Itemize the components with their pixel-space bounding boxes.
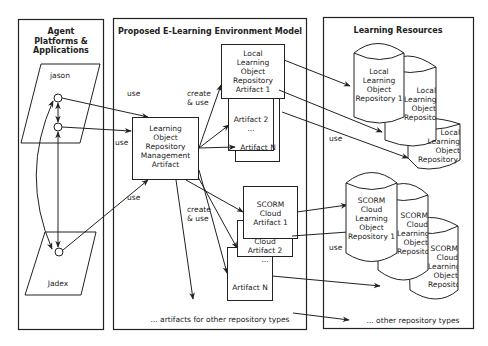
local-repo-n-label: Local Learning Object Repository N [418, 128, 460, 164]
local-repo-1-label: Local Learning Object Repository 1 [354, 67, 404, 103]
jadex-label: Jadex [38, 279, 78, 288]
resources-panel-title: Learning Resources [323, 26, 473, 36]
other-artifacts-label: ... artifacts for other repository types [140, 315, 300, 324]
use-label-bottom: use [127, 193, 140, 202]
scorm-artifact-2-label: Cloud Artifact 2 ... [237, 239, 293, 267]
local-repo-2-label: Local Learning Object Repository 2 [404, 86, 436, 122]
jason-label: jason [40, 71, 80, 80]
scorm-artifact-1-label: SCORM Cloud Artifact 1 [243, 200, 298, 227]
local-artifact-1-label: Local Learning Object Repository Artifac… [221, 49, 285, 94]
create-use-label-bottom: create & use [187, 205, 211, 223]
local-artifact-2-label: Artifact 2 ... [228, 115, 274, 133]
jason-node-1 [54, 94, 62, 102]
scorm-repo-1-label: SCORM Cloud Learning Object Repository 1 [346, 196, 397, 241]
model-panel-title: Proposed E-Learning Environment Model [113, 27, 307, 37]
scorm-repo-n-label: SCORM Cloud Learning Object Repository N [428, 244, 458, 289]
use-label-mid: use [115, 138, 128, 147]
use-scorm-repos-label: use [329, 243, 342, 252]
use-local-repos-label: use [329, 134, 342, 143]
local-artifact-n-label: Artifact N [235, 143, 281, 152]
management-artifact-label: Learning Object Repository Management Ar… [132, 124, 199, 169]
scorm-repo-2-label: SCORM Cloud Learning Object Repository 2 [397, 211, 428, 256]
jadex-node [55, 248, 63, 256]
create-use-label-top: create & use [187, 89, 211, 107]
scorm-artifact-n-label: Artifact N [227, 283, 273, 292]
agents-panel-title: Agent Platforms & Applications [18, 27, 104, 56]
use-label-top: use [127, 89, 140, 98]
other-repositories-label: ... other repository types [354, 316, 472, 325]
jason-node-2 [54, 123, 62, 131]
